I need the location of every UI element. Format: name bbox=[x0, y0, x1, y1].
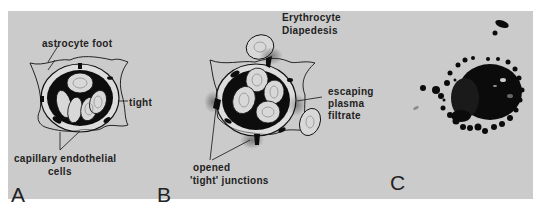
label-tight-junctions: 'tight' junctions bbox=[190, 175, 269, 187]
label-cells: cells bbox=[48, 166, 72, 178]
panel-letter-c: C bbox=[390, 172, 405, 194]
label-plasma: plasma bbox=[328, 98, 364, 110]
label-filtrate: filtrate bbox=[328, 110, 361, 122]
figure-artwork bbox=[0, 0, 539, 215]
capillary-diagram-b bbox=[204, 31, 324, 160]
capillary-diagram-a bbox=[30, 46, 128, 150]
label-astrocyte-foot: astrocyte foot bbox=[42, 38, 112, 50]
micrograph-c bbox=[413, 18, 525, 134]
label-escaping: escaping bbox=[328, 86, 374, 98]
panel-letter-b: B bbox=[157, 184, 171, 206]
label-diapedesis: Diapedesis bbox=[282, 25, 338, 37]
label-tight: tight bbox=[129, 97, 152, 109]
label-opened: opened bbox=[193, 162, 230, 174]
label-erythrocyte: Erythrocyte bbox=[282, 12, 341, 24]
panel-letter-a: A bbox=[11, 184, 25, 206]
label-capillary-endothelial: capillary endothelial bbox=[14, 153, 116, 165]
